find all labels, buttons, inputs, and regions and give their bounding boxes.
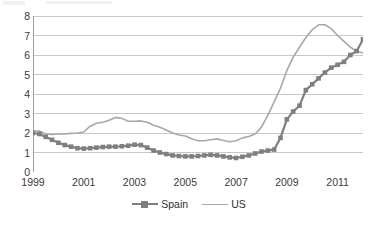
- legend-marker-us-icon: [202, 200, 228, 209]
- y-axis-tick-label: 1: [16, 148, 30, 158]
- plot-svg: [33, 16, 363, 172]
- x-axis-tick-label: 2003: [123, 176, 146, 188]
- scan-artifact-right: [46, 1, 112, 4]
- x-axis-tick-label: 1999: [21, 176, 44, 188]
- y-axis-tick-label: 6: [16, 50, 30, 60]
- legend-item-us[interactable]: US: [202, 198, 246, 210]
- x-axis-tick-label: 2001: [72, 176, 95, 188]
- legend-item-spain[interactable]: Spain: [132, 198, 188, 210]
- chart-legend: Spain US: [0, 198, 378, 210]
- y-axis-tick-labels: 012345678: [12, 16, 30, 172]
- series-markers-spain: [33, 37, 363, 160]
- x-axis-tick-label: 2007: [224, 176, 247, 188]
- legend-marker-spain-icon: [132, 200, 158, 209]
- chart-container: 012345678 1999200120032005200720092011 S…: [0, 0, 378, 225]
- y-axis-tick-label: 8: [16, 11, 30, 21]
- legend-label-spain: Spain: [161, 198, 188, 210]
- y-axis-tick-label: 5: [16, 70, 30, 80]
- x-axis-tick-labels: 1999200120032005200720092011: [33, 176, 363, 192]
- y-axis-tick-label: 2: [16, 128, 30, 138]
- y-axis-tick-label: 3: [16, 109, 30, 119]
- x-axis-tick-label: 2009: [275, 176, 298, 188]
- y-axis-tick-label: 4: [16, 89, 30, 99]
- scan-artifact-left: [3, 1, 25, 5]
- y-axis-tick-label: 7: [16, 31, 30, 41]
- plot-area: [33, 16, 363, 172]
- x-axis-tick-label: 2005: [174, 176, 197, 188]
- legend-label-us: US: [231, 198, 246, 210]
- x-axis-tick-label: 2011: [326, 176, 349, 188]
